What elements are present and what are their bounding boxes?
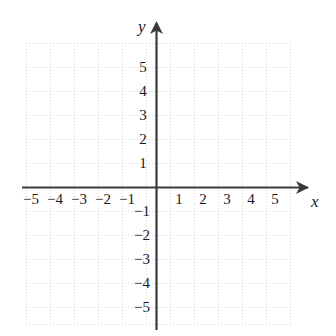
gridlines-vertical [27, 43, 291, 325]
x-tick-label--2: −2 [94, 192, 112, 207]
x-tick-label--3: −3 [70, 192, 88, 207]
y-tick-label--2: −2 [130, 228, 150, 243]
x-tick-label--4: −4 [46, 192, 64, 207]
y-tick-label-4: 4 [136, 84, 150, 99]
x-axis-label: x [311, 193, 319, 210]
y-axis-label: y [138, 18, 146, 35]
x-tick-label--5: −5 [22, 192, 40, 207]
x-tick-label-5: 5 [268, 192, 282, 207]
x-tick-label-4: 4 [244, 192, 258, 207]
x-tick-label-2: 2 [196, 192, 210, 207]
y-tick-label--5: −5 [130, 300, 150, 315]
y-tick-label--1: −1 [130, 204, 150, 219]
x-tick-label-1: 1 [172, 192, 186, 207]
x-axis [22, 181, 309, 194]
y-tick-label--4: −4 [130, 276, 150, 291]
y-tick-label--3: −3 [130, 252, 150, 267]
y-tick-label-5: 5 [136, 60, 150, 75]
y-tick-label-3: 3 [136, 108, 150, 123]
coordinate-plane-figure: y x −5 −4 −3 −2 −1 1 2 3 4 5 5 4 3 2 1 −… [0, 0, 336, 336]
y-tick-label-1: 1 [136, 156, 150, 171]
y-tick-label-2: 2 [136, 132, 150, 147]
coordinate-grid-svg [0, 0, 336, 336]
x-tick-label-3: 3 [220, 192, 234, 207]
gridlines-horizontal [26, 44, 291, 325]
